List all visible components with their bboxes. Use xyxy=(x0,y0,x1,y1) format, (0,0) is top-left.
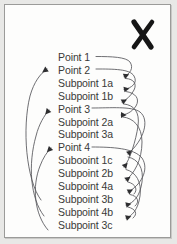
x-mark-icon xyxy=(134,22,152,47)
list-item: Subpoint 4b xyxy=(58,207,113,218)
return-curve-to-point-3 xyxy=(31,110,49,216)
list-item: Point 2 xyxy=(58,65,90,76)
list-item: Subpoint 1a xyxy=(58,78,113,89)
list-item: Point 3 xyxy=(58,104,90,115)
link-1b-3a xyxy=(121,92,138,116)
list-item: Subpoint 1b xyxy=(58,91,113,102)
list-item: Subpoint 2a xyxy=(58,117,113,128)
list-item: Subpoint 3c xyxy=(58,220,112,231)
link-1a-2a xyxy=(122,79,135,103)
list-item: Subpoint 4a xyxy=(58,181,113,192)
list-item: Point 1 xyxy=(58,52,90,63)
leader-point-1 xyxy=(96,57,132,77)
list-item: Point 4 xyxy=(58,142,90,153)
return-curve-to-point-4 xyxy=(35,148,51,230)
list-item: Subpoint 3b xyxy=(58,194,113,205)
list-item: Subooint 1c xyxy=(58,155,112,166)
link-2b-3c xyxy=(126,170,140,219)
list-item: Subpoint 2b xyxy=(58,168,113,179)
scanned-page: Point 1 Point 2 Subpoint 1a Subpoint 1b … xyxy=(0,0,177,244)
list-item: Subpoint 3a xyxy=(58,129,113,140)
